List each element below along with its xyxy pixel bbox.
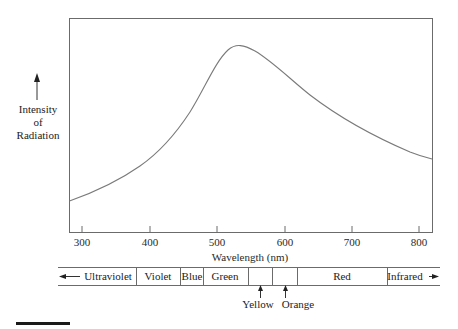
band-yellow: Yellow xyxy=(242,298,273,310)
band-ultraviolet: Ultraviolet xyxy=(84,270,132,282)
infrared-right-arrow-icon xyxy=(429,274,439,279)
plot-frame xyxy=(70,19,433,233)
x-axis-ticks xyxy=(82,226,419,232)
intensity-curve xyxy=(70,46,433,201)
band-orange: Orange xyxy=(282,298,314,310)
band-red: Red xyxy=(333,270,351,282)
band-blue: Blue xyxy=(182,270,203,282)
y-axis-label-line2: of xyxy=(8,116,68,129)
x-tick-600: 600 xyxy=(277,236,294,248)
y-axis-label-line3: Radiation xyxy=(8,129,68,142)
x-tick-300: 300 xyxy=(74,236,91,248)
orange-pointer-arrow-icon xyxy=(283,285,288,298)
x-axis-title: Wavelength (nm) xyxy=(212,251,288,263)
x-tick-400: 400 xyxy=(142,236,159,248)
yellow-pointer-arrow-icon xyxy=(258,285,263,298)
band-green: Green xyxy=(212,270,239,282)
ultraviolet-left-arrow-icon xyxy=(59,274,80,279)
y-axis-label-line1: Intensity xyxy=(8,103,68,116)
y-axis-label: Intensity of Radiation xyxy=(8,103,68,142)
band-violet: Violet xyxy=(145,270,172,282)
y-axis-up-arrow-icon xyxy=(34,73,40,100)
scale-bar xyxy=(16,322,70,325)
band-infrared: Infrared xyxy=(387,270,422,282)
x-tick-700: 700 xyxy=(344,236,361,248)
x-tick-800: 800 xyxy=(411,236,428,248)
x-tick-500: 500 xyxy=(209,236,226,248)
